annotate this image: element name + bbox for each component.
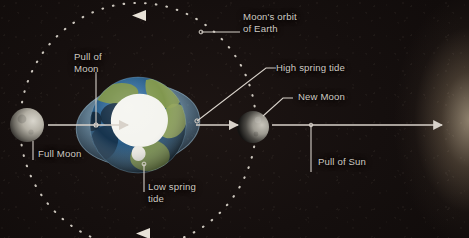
new-moon-body <box>237 111 269 143</box>
full-moon-body <box>10 108 44 142</box>
diagram-graphics <box>0 0 469 238</box>
pull-of-sun-arrow <box>272 123 442 172</box>
leader-new-moon <box>263 98 293 116</box>
orbit-direction-arrow-top <box>132 10 146 21</box>
leader-high-spring-tide <box>197 68 276 121</box>
orbit-direction-arrow-bottom <box>136 228 150 238</box>
spring-tides-diagram: Moon's orbit of Earth High spring tide N… <box>0 0 469 238</box>
